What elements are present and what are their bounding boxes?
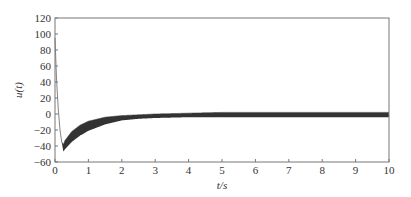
x-tick-label: 3 <box>152 164 158 176</box>
x-tick-label: 1 <box>86 164 92 176</box>
plot-area <box>55 38 389 152</box>
y-tick-label: 100 <box>35 28 52 40</box>
y-tick-label: 60 <box>40 60 52 72</box>
x-tick-label: 2 <box>119 164 125 176</box>
y-axis-label: u(t) <box>12 82 25 98</box>
x-tick-label: 0 <box>52 164 58 176</box>
axes-frame <box>55 18 389 162</box>
y-tick-label: −40 <box>34 140 52 152</box>
x-tick-label: 9 <box>353 164 359 176</box>
series-line <box>55 38 389 144</box>
x-tick-label: 8 <box>319 164 325 176</box>
y-tick-label: 20 <box>40 92 52 104</box>
x-tick-label: 6 <box>253 164 259 176</box>
y-tick-label: 0 <box>46 108 52 120</box>
x-tick-label: 7 <box>286 164 292 176</box>
y-axis-ticks: −60−40−20020406080100120 <box>34 12 58 168</box>
x-tick-label: 5 <box>219 164 225 176</box>
x-tick-label: 4 <box>186 164 192 176</box>
y-tick-label: 80 <box>40 44 52 56</box>
x-axis-label: t/s <box>217 179 227 191</box>
chart: 012345678910 −60−40−20020406080100120 t/… <box>0 0 411 197</box>
y-tick-label: 40 <box>40 76 52 88</box>
series-band <box>55 38 389 152</box>
y-tick-label: 120 <box>35 12 52 24</box>
y-tick-label: −20 <box>34 124 52 136</box>
x-tick-label: 10 <box>384 164 396 176</box>
y-tick-label: −60 <box>34 156 52 168</box>
